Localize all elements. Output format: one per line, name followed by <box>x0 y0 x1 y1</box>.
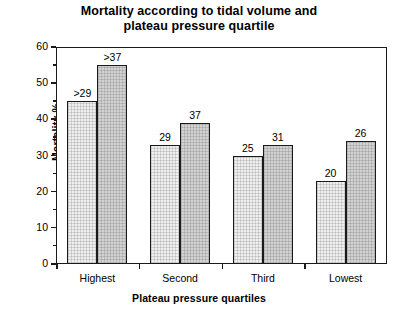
x-tick-mark <box>222 264 224 269</box>
y-tick-mark <box>51 82 56 84</box>
x-tick-label-third: Third <box>218 272 308 284</box>
bar-lowest-series-1 <box>316 181 346 264</box>
bar-second-series-2 <box>180 123 210 264</box>
y-tick-label: 10 <box>8 220 48 235</box>
bar-value-label: >37 <box>89 51 135 63</box>
bar-third-series-2 <box>263 145 293 264</box>
y-minor-tick-mark <box>53 64 56 66</box>
y-minor-tick-mark <box>53 245 56 247</box>
y-tick-mark <box>51 191 56 193</box>
y-minor-tick-mark <box>53 136 56 138</box>
bar-second-series-1 <box>150 145 180 264</box>
y-tick-mark <box>51 155 56 157</box>
y-minor-tick-mark <box>53 100 56 102</box>
chart-title-line-2: plateau pressure quartile <box>0 19 398 34</box>
x-tick-label-lowest: Lowest <box>301 272 391 284</box>
y-tick-mark <box>51 227 56 229</box>
x-tick-mark <box>304 264 306 269</box>
y-tick-mark <box>51 118 56 120</box>
bar-lowest-series-2 <box>346 141 376 264</box>
x-tick-mark <box>56 264 58 269</box>
bar-third-series-1 <box>233 156 263 265</box>
y-tick-label: 50 <box>8 75 48 90</box>
chart-title: Mortality according to tidal volume and … <box>0 4 398 34</box>
x-tick-mark <box>139 264 141 269</box>
bars-layer: >29>37293725312026 <box>56 47 387 264</box>
bar-value-label: 31 <box>255 131 301 143</box>
y-minor-tick-mark <box>53 209 56 211</box>
chart-title-line-1: Mortality according to tidal volume and <box>0 4 398 19</box>
y-tick-label: 60 <box>8 39 48 54</box>
y-tick-label: 20 <box>8 184 48 199</box>
bar-highest-series-1 <box>67 101 97 264</box>
x-tick-label-second: Second <box>135 272 225 284</box>
y-minor-tick-mark <box>53 173 56 175</box>
bar-highest-series-2 <box>97 65 127 264</box>
y-tick-label: 0 <box>8 256 48 271</box>
chart-figure: Mortality according to tidal volume and … <box>0 0 398 311</box>
x-tick-label-highest: Highest <box>52 272 142 284</box>
y-tick-label: 40 <box>8 111 48 126</box>
y-tick-label: 30 <box>8 148 48 163</box>
y-tick-mark <box>51 46 56 48</box>
bar-value-label: 26 <box>338 127 384 139</box>
x-axis-title: Plateau pressure quartiles <box>0 292 398 304</box>
bar-value-label: 37 <box>172 109 218 121</box>
